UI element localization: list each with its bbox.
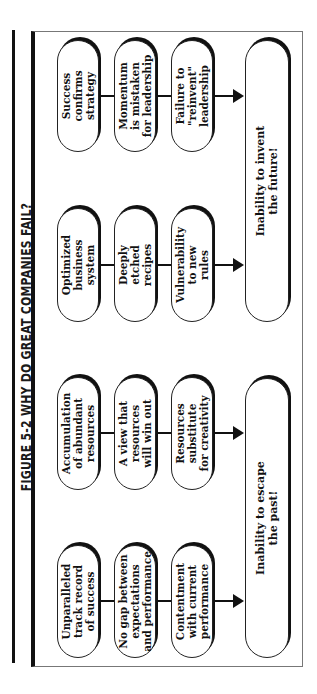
connector-line — [213, 264, 235, 266]
connector-line — [99, 264, 114, 266]
step-box-accumulation: Accumulation of abundant resources — [57, 377, 99, 490]
arrow-down-icon — [233, 426, 244, 440]
step-box-contentment: Contentment with current performance — [171, 545, 213, 658]
outcome-box-invent-future: Inability to invent the future! — [245, 40, 289, 322]
step-box-resources-substitute: Resources substitute for creativity — [171, 377, 213, 490]
connector-line — [213, 600, 235, 602]
connector-line — [99, 432, 114, 434]
arrow-down-icon — [233, 258, 244, 272]
connector-line — [156, 264, 171, 266]
arrow-down-icon — [233, 594, 244, 608]
step-box-momentum: Momentum is mistaken for leadership — [114, 40, 156, 152]
connector-line — [156, 432, 171, 434]
connector-line — [213, 432, 235, 434]
connector-line — [213, 95, 235, 97]
step-box-deeply-etched: Deeply etched recipes — [114, 208, 156, 322]
step-box-view-resources: A view that resources will win out — [114, 377, 156, 490]
step-box-success-confirms: Success confirms strategy — [57, 40, 99, 152]
step-box-failure-reinvent: Failure to "reinvent" leadership — [171, 40, 213, 152]
outcome-box-escape-past: Inability to escape the past! — [245, 378, 289, 658]
connector-line — [99, 95, 114, 97]
step-box-no-gap: No gap between expectations and performa… — [114, 545, 156, 658]
step-box-vulnerability: Vulnerability to new rules — [171, 208, 213, 322]
figure-canvas: FIGURE 5-2 WHY DO GREAT COMPANIES FAIL? … — [0, 0, 317, 694]
arrow-down-icon — [233, 89, 244, 103]
connector-line — [156, 600, 171, 602]
connector-line — [99, 600, 114, 602]
step-box-optimized-system: Optimized business system — [57, 208, 99, 322]
connector-line — [156, 95, 171, 97]
step-box-unparalleled-track-record: Unparalleled track record of success — [57, 545, 99, 658]
